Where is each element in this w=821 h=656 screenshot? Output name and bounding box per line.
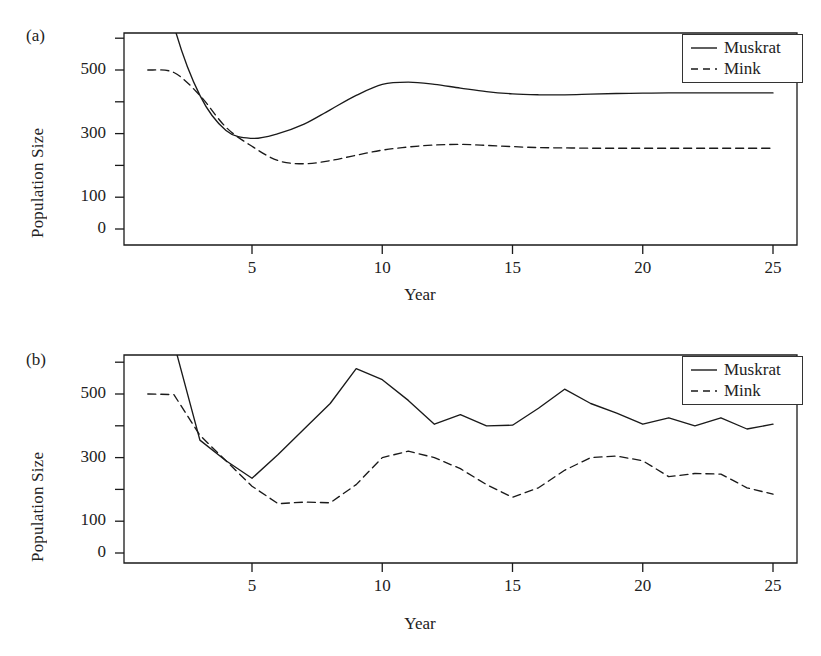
y-tick-label-300: 300 bbox=[62, 447, 106, 467]
x-tick-label-10: 10 bbox=[362, 258, 402, 278]
legend-label-muskrat: Muskrat bbox=[724, 359, 781, 380]
legend-key-dashed-icon bbox=[689, 62, 719, 76]
legend-key-solid-icon bbox=[689, 363, 719, 377]
panel-a: (a) Population Size Year Muskrat Mink 50… bbox=[0, 0, 821, 328]
series-line-mink bbox=[148, 394, 773, 504]
legend-key-solid-icon bbox=[689, 41, 719, 55]
x-tick-label-5: 5 bbox=[232, 258, 272, 278]
series-group bbox=[148, 0, 773, 164]
x-tick-label-15: 15 bbox=[493, 258, 533, 278]
legend-item-muskrat: Muskrat bbox=[689, 359, 794, 380]
x-tick-label-20: 20 bbox=[623, 576, 663, 596]
legend-key-dashed-icon bbox=[689, 384, 719, 398]
panel-a-x-axis-label: Year bbox=[380, 285, 460, 305]
x-tick-label-25: 25 bbox=[753, 258, 793, 278]
x-tick-label-10: 10 bbox=[362, 576, 402, 596]
figure-root: (a) Population Size Year Muskrat Mink 50… bbox=[0, 0, 821, 656]
legend-label-mink: Mink bbox=[724, 380, 761, 401]
y-tick-label-100: 100 bbox=[62, 510, 106, 530]
legend-label-muskrat: Muskrat bbox=[724, 37, 781, 58]
x-tick-label-20: 20 bbox=[623, 258, 663, 278]
y-tick-label-500: 500 bbox=[62, 59, 106, 79]
y-tick-label-0: 0 bbox=[62, 542, 106, 562]
y-tick-label-300: 300 bbox=[62, 123, 106, 143]
panel-b-x-axis-label: Year bbox=[380, 614, 460, 634]
panel-b-legend: Muskrat Mink bbox=[682, 356, 803, 405]
series-line-muskrat bbox=[148, 0, 773, 138]
y-tick-label-0: 0 bbox=[62, 218, 106, 238]
legend-label-mink: Mink bbox=[724, 58, 761, 79]
panel-b: (b) Population Size Year Muskrat Mink 50… bbox=[0, 328, 821, 656]
legend-item-muskrat: Muskrat bbox=[689, 37, 794, 58]
x-tick-label-25: 25 bbox=[753, 576, 793, 596]
legend-item-mink: Mink bbox=[689, 380, 794, 401]
series-line-mink bbox=[148, 70, 773, 164]
series-line-muskrat bbox=[148, 328, 773, 478]
x-tick-label-15: 15 bbox=[493, 576, 533, 596]
y-tick-label-500: 500 bbox=[62, 383, 106, 403]
y-tick-label-100: 100 bbox=[62, 186, 106, 206]
panel-a-legend: Muskrat Mink bbox=[682, 34, 803, 83]
x-tick-label-5: 5 bbox=[232, 576, 272, 596]
legend-item-mink: Mink bbox=[689, 58, 794, 79]
